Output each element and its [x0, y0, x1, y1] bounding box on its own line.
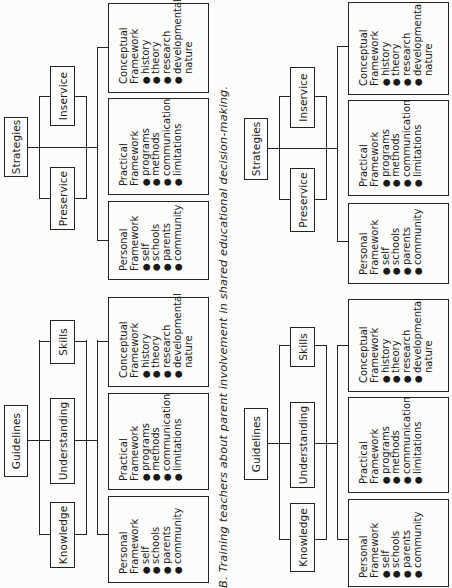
list-item-label: self [380, 550, 391, 568]
conceptual-framework-box: Conceptual Framework ●history ●theory ●r… [348, 2, 449, 95]
understanding-label: Understanding [297, 406, 309, 485]
rotated-page: Guidelines Knowledge Understanding Skill… [0, 0, 452, 588]
bracket [39, 340, 40, 535]
connector [337, 539, 348, 540]
conceptual-framework-box: Conceptual Framework ●history ●theory ●r… [108, 297, 209, 387]
preservice-label: Preservice [297, 172, 309, 227]
bracket [86, 96, 87, 199]
list-item-label: parents [401, 227, 412, 265]
bullet-icon: ● [381, 476, 392, 484]
bracket [337, 46, 338, 242]
list-item-label: community [412, 209, 423, 265]
list-item-label: methods [150, 427, 161, 471]
bullet-icon: ● [402, 570, 413, 578]
list-item-label: self [380, 247, 391, 265]
personal-framework-box: Personal Framework ●self ●schools ●paren… [108, 201, 209, 280]
list-item: ●limitations [413, 397, 424, 484]
practical-framework-box: Practical Framework ●programs ●methods ●… [108, 393, 209, 490]
list-item: ●community [173, 205, 184, 271]
list-item: ●community [413, 209, 424, 275]
figure-caption: B. Training teachers about parent involv… [217, 86, 230, 588]
skills-label: Skills [297, 333, 309, 361]
list-item-label: developmental [172, 293, 183, 368]
guidelines-root-label: Guidelines [10, 413, 22, 469]
bracket [279, 96, 280, 200]
list-item-label: programs [380, 129, 391, 177]
connector [97, 240, 108, 241]
bullet-icon: ● [391, 78, 402, 86]
list-item-label: limitations [412, 125, 423, 178]
list-item-label: methods [390, 133, 401, 177]
knowledge-box: Knowledge [50, 502, 75, 568]
bullet-icon: ● [141, 76, 152, 84]
list-item-label: theory [390, 340, 401, 373]
list-item-label: theory [150, 41, 161, 74]
preservice-box: Preservice [50, 167, 75, 230]
bullet-icon: ● [173, 566, 184, 574]
bullet-icon: ● [162, 263, 173, 271]
bullet-icon: ● [402, 375, 413, 383]
bracket [326, 96, 327, 200]
bullet-icon: ● [391, 375, 402, 383]
bullet-icon: ● [141, 473, 152, 481]
bracket [97, 47, 98, 241]
list-item-label: communication [401, 397, 412, 474]
strategies-root-box: Strategies [244, 118, 268, 180]
connector [97, 47, 108, 48]
list-item-label: developmental [172, 0, 183, 74]
list-item-label: nature [183, 335, 194, 368]
bullet-icon: ● [141, 370, 152, 378]
leaf-title: Framework [130, 508, 141, 574]
list-item-label: research [401, 330, 412, 373]
list-item: nature [184, 293, 195, 378]
list-item-label: parents [401, 530, 412, 568]
list-item-label: nature [183, 41, 194, 74]
guidelines-diagram-top: Guidelines Knowledge Understanding Skill… [0, 294, 212, 588]
skills-label: Skills [57, 328, 69, 356]
skills-box: Skills [50, 320, 75, 364]
list-item-label: communication [161, 99, 172, 176]
list-item-label: research [401, 33, 412, 76]
bracket [86, 340, 87, 535]
list-item-label: methods [390, 430, 401, 474]
bullet-icon: ● [151, 263, 162, 271]
bullet-icon: ● [162, 76, 173, 84]
bullet-icon: ● [141, 263, 152, 271]
bullet-icon: ● [141, 178, 152, 186]
bullet-icon: ● [381, 179, 392, 187]
practical-framework-box: Practical Framework ●programs ●methods ●… [108, 98, 209, 195]
list-item: ●community [413, 512, 424, 578]
understanding-box: Understanding [290, 402, 315, 488]
list-item-label: history [140, 40, 151, 74]
understanding-label: Understanding [57, 402, 69, 481]
bullet-icon: ● [381, 78, 392, 86]
list-item-label: nature [423, 340, 434, 373]
bullet-icon: ● [391, 476, 402, 484]
list-item-label: history [380, 42, 391, 76]
list-item-label: schools [390, 531, 401, 568]
list-item-label: programs [140, 423, 151, 471]
inservice-label: Inservice [297, 73, 309, 121]
list-item-label: theory [390, 43, 401, 76]
bullet-icon: ● [413, 179, 424, 187]
list-item-label: community [172, 508, 183, 564]
list-item-label: self [140, 243, 151, 261]
list-item-label: parents [161, 223, 172, 261]
connector [39, 534, 50, 535]
bullet-icon: ● [162, 566, 173, 574]
list-item-label: nature [423, 43, 434, 76]
strategies-root-label: Strategies [250, 122, 262, 177]
personal-framework-box: Personal Framework ●self ●schools ●paren… [348, 203, 449, 284]
list-item-label: programs [140, 128, 151, 176]
guidelines-root-label: Guidelines [250, 416, 262, 472]
strategies-diagram-top: Strategies Preservice Inservice Personal… [0, 0, 212, 294]
list-item: ●limitations [413, 100, 424, 187]
list-item: ●limitations [173, 394, 184, 481]
list-item-label: parents [161, 526, 172, 564]
connector [97, 341, 108, 342]
conceptual-framework-box: Conceptual Framework ●history ●theory ●r… [108, 3, 209, 93]
bullet-icon: ● [162, 370, 173, 378]
preservice-label: Preservice [57, 171, 69, 226]
practical-framework-box: Practical Framework ●programs ●methods ●… [348, 397, 449, 493]
list-item: nature [424, 1, 435, 86]
